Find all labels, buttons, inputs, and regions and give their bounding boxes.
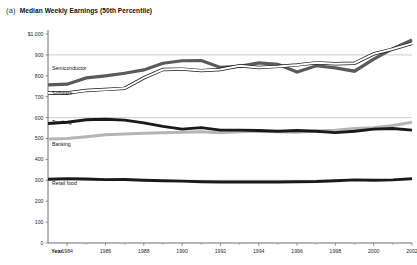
- x-tick-label-1996: 1996: [291, 248, 303, 254]
- y-tick-label-400: 400: [35, 156, 44, 162]
- x-axis-title: Year: [51, 248, 63, 254]
- y-tick-label-700: 700: [35, 94, 44, 100]
- plot-area: $1,0009008007006005004003002001000 19841…: [0, 0, 417, 265]
- series-label-semiconductor: Semiconductor: [52, 65, 87, 71]
- y-tick-label-100: 100: [35, 219, 44, 225]
- series-line-trucking: [48, 119, 412, 132]
- line-chart-svg: $1,0009008007006005004003002001000 19841…: [0, 0, 417, 265]
- data-series-group: [48, 40, 412, 182]
- y-tick-labels-group: $1,0009008007006005004003002001000: [28, 31, 48, 246]
- x-tick-label-1988: 1988: [138, 248, 150, 254]
- y-tick-label-600: 600: [35, 115, 44, 121]
- y-tick-label-900: 900: [35, 52, 44, 58]
- x-tick-labels-group: 1984198619881990199219941996199820002002: [61, 243, 417, 254]
- x-tick-label-1992: 1992: [215, 248, 227, 254]
- chart-page: (a) Median Weekly Earnings (50th Percent…: [0, 0, 417, 265]
- series-label-retail-food: Retail food: [52, 180, 77, 186]
- x-tick-label-1984: 1984: [61, 248, 73, 254]
- gridlines-group: [48, 55, 412, 180]
- y-tick-label-1000: $1,000: [28, 31, 44, 37]
- x-tick-label-1986: 1986: [100, 248, 112, 254]
- series-label-banking: Banking: [52, 141, 71, 147]
- x-tick-label-2000: 2000: [368, 248, 380, 254]
- series-label-software: Software: [52, 90, 73, 96]
- y-tick-label-500: 500: [35, 135, 44, 141]
- x-tick-label-1990: 1990: [176, 248, 188, 254]
- x-tick-label-1994: 1994: [253, 248, 265, 254]
- series-label-trucking: Trucking: [52, 119, 72, 125]
- y-tick-label-0: 0: [41, 240, 44, 246]
- y-tick-label-200: 200: [35, 198, 44, 204]
- y-tick-label-800: 800: [35, 73, 44, 79]
- y-tick-label-300: 300: [35, 177, 44, 183]
- x-tick-label-2002: 2002: [406, 248, 417, 254]
- x-tick-label-1998: 1998: [330, 248, 342, 254]
